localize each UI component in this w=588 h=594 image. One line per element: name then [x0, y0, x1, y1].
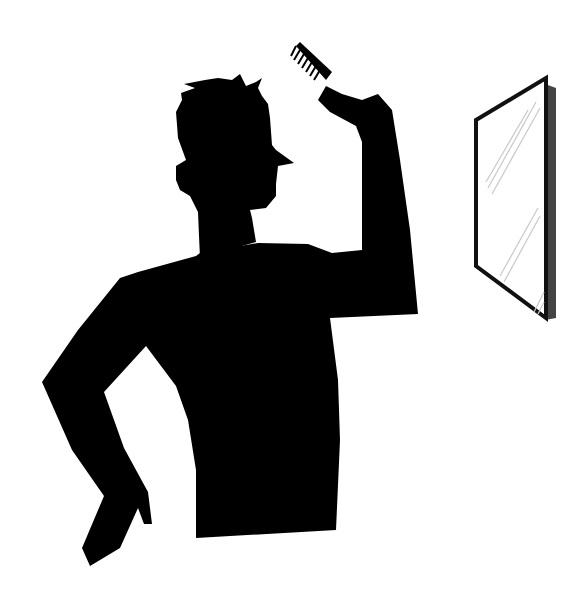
man-silhouette	[42, 42, 418, 566]
illustration-svg	[0, 0, 588, 594]
mirror-glass	[476, 78, 546, 318]
wall-mirror	[476, 78, 556, 320]
head	[176, 74, 294, 258]
comb	[291, 42, 332, 80]
illustration-canvas	[0, 0, 588, 594]
comb-spine	[296, 42, 332, 80]
